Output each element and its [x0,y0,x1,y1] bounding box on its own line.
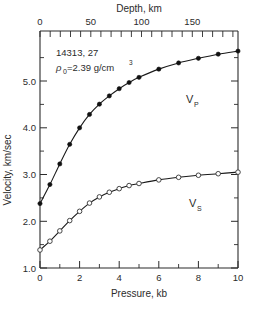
vs-series-label: V S [189,197,202,212]
bottom-tick-label-8: 8 [196,272,201,283]
density-annotation: ρ 0 =2.39 g/cm 3 [55,59,133,75]
data-point-vs-10 [137,181,142,186]
data-point-vs-8 [117,186,122,191]
bottom-axis-title: Pressure, kb [111,288,168,299]
data-point-vp-8 [117,87,121,91]
left-axis-title: Velocity, km/sec [2,135,13,206]
data-point-vs-6 [97,195,102,200]
velocity-pressure-chart: 0 50 100 150 Depth, km 0 2 4 6 8 10 Pres… [0,0,254,309]
top-axis-ticks [40,31,233,37]
left-tick-label-4: 4.0 [23,122,36,133]
bottom-axis-ticks [40,261,238,268]
series-vs [38,170,241,252]
top-tick-label-0: 0 [37,16,42,27]
data-point-vs-0 [38,248,43,253]
data-point-vs-12 [176,175,181,180]
data-point-vp-9 [127,80,131,84]
bottom-tick-label-0: 0 [37,272,42,283]
top-tick-label-50: 50 [86,16,97,27]
left-tick-label-1: 1.0 [23,263,36,274]
data-point-vp-11 [157,67,161,71]
data-point-vp-6 [97,102,101,106]
left-tick-label-2: 2.0 [23,216,36,227]
data-point-vp-2 [58,162,62,166]
data-point-vs-4 [77,209,82,214]
data-point-vs-7 [107,190,112,195]
vs-label-subscript: S [197,205,202,212]
data-point-vp-7 [107,94,111,98]
bottom-tick-label-2: 2 [77,272,82,283]
left-tick-label-3: 3.0 [23,169,36,180]
density-value: =2.39 g/cm [67,62,114,73]
top-tick-label-100: 100 [134,16,150,27]
data-point-vp-3 [68,142,72,146]
data-point-vs-14 [216,171,221,176]
data-series-layer [38,49,241,252]
density-exponent: 3 [129,59,133,66]
bottom-tick-label-10: 10 [233,272,244,283]
data-point-vp-5 [87,112,91,116]
data-point-vp-15 [236,49,240,53]
vp-label-subscript: P [194,101,199,108]
data-point-vp-1 [48,182,52,186]
data-point-vp-13 [196,56,200,60]
data-point-vs-11 [157,178,162,183]
data-point-vp-0 [38,202,42,206]
figure-container: 0 50 100 150 Depth, km 0 2 4 6 8 10 Pres… [0,0,254,309]
density-symbol: ρ [55,62,62,73]
data-point-vs-13 [196,173,201,178]
sample-id-label: 14313, 27 [56,47,98,58]
data-point-vs-15 [236,170,241,175]
left-axis-ticks [40,58,238,268]
data-point-vs-5 [87,201,92,206]
vp-label-text: V [186,93,194,105]
curve-vp [40,51,238,204]
data-point-vs-2 [58,229,63,234]
vs-label-text: V [189,197,197,209]
data-point-vs-9 [127,183,132,188]
vp-series-label: V P [186,93,199,108]
data-point-vp-10 [137,75,141,79]
left-tick-label-5: 5.0 [23,76,36,87]
bottom-tick-label-6: 6 [156,272,161,283]
data-point-vp-12 [177,61,181,65]
data-point-vp-14 [216,52,220,56]
data-point-vs-1 [48,239,53,244]
bottom-tick-label-4: 4 [117,272,122,283]
top-axis-title: Depth, km [116,3,162,14]
top-tick-label-150: 150 [184,16,200,27]
data-point-vs-3 [67,218,72,223]
data-point-vp-4 [78,126,82,130]
